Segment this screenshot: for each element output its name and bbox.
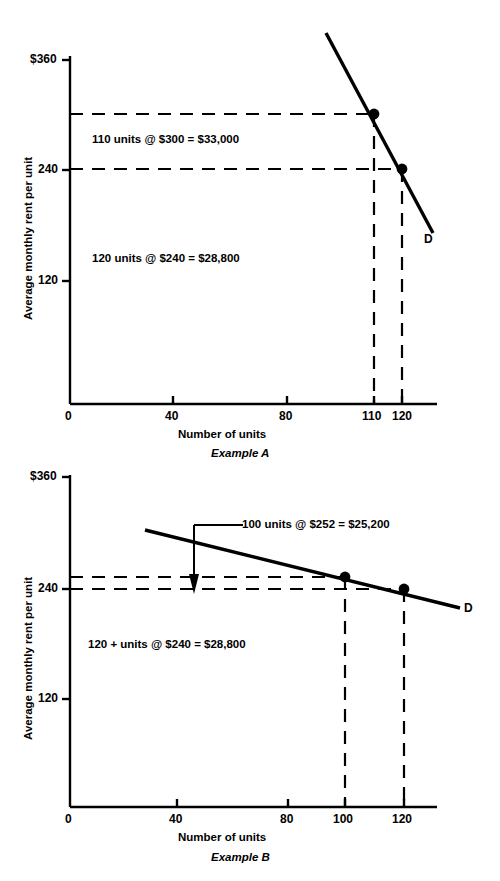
- x-tick-label-110-a: 110: [362, 409, 381, 423]
- data-point-120-240: [397, 164, 408, 175]
- data-point-110-300: [369, 109, 380, 120]
- x-axis-title-a: Number of units: [178, 428, 266, 440]
- annotation-b-2: 120 + units @ $240 = $28,800: [88, 638, 246, 650]
- curve-label-d-b: D: [464, 601, 473, 615]
- y-axis-title-b: Average monthly rent per unit: [22, 577, 34, 740]
- caption-example-a: Example A: [211, 447, 269, 459]
- y-tick-label-240-b: 240: [38, 581, 58, 595]
- curve-label-d-a: D: [424, 232, 433, 246]
- y-tick-label-360-a: $360: [30, 52, 57, 66]
- data-point-100-252: [340, 572, 351, 583]
- x-tick-label-120-b: 120: [392, 812, 412, 826]
- demand-curve-a: [326, 33, 433, 233]
- x-axis-title-b: Number of units: [178, 831, 266, 843]
- x-tick-label-100-b: 100: [333, 812, 353, 826]
- x-tick-label-80-b: 80: [280, 812, 293, 826]
- callout-arrowhead-b: [189, 574, 199, 594]
- example-a-plot: [0, 0, 500, 440]
- annotation-a-2: 120 units @ $240 = $28,800: [92, 252, 240, 264]
- y-tick-label-240-a: 240: [38, 162, 58, 176]
- demand-curve-b: [145, 530, 460, 608]
- demand-curve-figure: $360 240 120 0 40 80 110 120 Average mon…: [0, 0, 500, 881]
- x-tick-label-40-b: 40: [169, 812, 182, 826]
- y-axis-title-a: Average monthly rent per unit: [22, 157, 34, 320]
- y-tick-label-120-b: 120: [38, 691, 58, 705]
- x-tick-label-0-b: 0: [65, 812, 72, 826]
- x-tick-label-0-a: 0: [65, 409, 72, 423]
- caption-example-b: Example B: [211, 851, 270, 863]
- y-tick-label-360-b: $360: [30, 469, 57, 483]
- x-tick-label-120-a: 120: [392, 409, 412, 423]
- x-tick-label-80-a: 80: [279, 409, 292, 423]
- y-tick-label-120-a: 120: [38, 273, 58, 287]
- annotation-a-1: 110 units @ $300 = $33,000: [92, 133, 239, 145]
- x-tick-label-40-a: 40: [165, 409, 178, 423]
- data-point-120-240: [399, 584, 410, 595]
- annotation-b-1: 100 units @ $252 = $25,200: [242, 518, 390, 530]
